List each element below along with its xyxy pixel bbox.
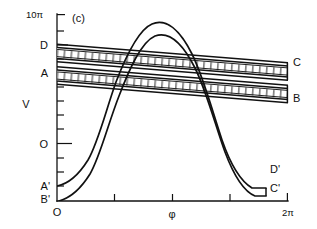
right-label-D-prime: D': [270, 163, 280, 175]
y-axis-name: V: [22, 98, 30, 110]
y-label-A: A: [41, 67, 49, 79]
right-label-C-prime: C': [270, 182, 280, 194]
x-axis-name: φ: [168, 208, 175, 220]
y-label-A-prime: A': [41, 180, 50, 192]
y-label-B-prime: B': [41, 193, 50, 205]
physics-plot: 10π (c) D A O A' B' V C B D' C' O φ 2π: [0, 0, 317, 229]
axes-group: [57, 14, 288, 201]
y-label-O: O: [39, 138, 48, 150]
curves-group: [57, 22, 266, 201]
x-axis-ticks: [115, 194, 231, 201]
x-origin-label: O: [53, 206, 62, 218]
right-label-C: C: [293, 56, 301, 68]
y-axis-top-label: 10π: [26, 9, 44, 20]
panel-label: (c): [72, 12, 85, 24]
figure-container: 10π (c) D A O A' B' V C B D' C' O φ 2π: [0, 0, 317, 229]
right-label-B: B: [293, 92, 300, 104]
y-label-D: D: [40, 39, 48, 51]
x-axis-end-label: 2π: [282, 207, 294, 218]
